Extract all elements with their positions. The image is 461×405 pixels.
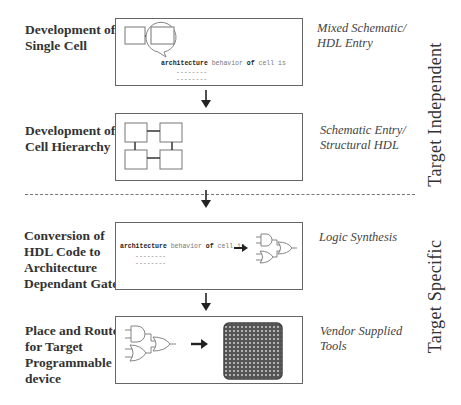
step-4-tool-line2: Tools [320, 339, 402, 354]
step-1-box: architecture behavior of cell is -------… [115, 18, 303, 86]
arrow-down-icon [200, 90, 212, 110]
step-2-box [115, 113, 303, 181]
fpga-chip-icon [224, 323, 282, 379]
arrow-down-icon [200, 293, 212, 313]
code-keyword: architecture [161, 60, 208, 67]
phase-label-target-specific: Target Specific [425, 227, 446, 367]
synthesized-gates-icon [116, 223, 304, 291]
step-1-tool-line1: Mixed Schematic/ [317, 21, 406, 36]
step-4-tool-line1: Vendor Supplied [320, 324, 402, 339]
step-4-label-line3: Programmable [25, 355, 119, 371]
code-ident: behavior [212, 60, 243, 67]
step-3-label-line4: Dependant Gates [24, 276, 123, 292]
step-3-box: architecture behavior of cell is -------… [115, 222, 303, 290]
step-1-tool: Mixed Schematic/ HDL Entry [317, 21, 406, 51]
step-2-label: Development of Cell Hierarchy [25, 123, 115, 155]
code-dashes: -------- -------- [176, 69, 207, 83]
step-4-tool: Vendor Supplied Tools [320, 324, 402, 354]
step-4-label-line1: Place and Route [25, 323, 119, 339]
step-2-tool-line1: Schematic Entry/ [320, 123, 406, 138]
step-1-label-line2: Single Cell [25, 38, 115, 54]
place-route-icon [116, 317, 304, 385]
arrow-down-icon [200, 190, 212, 210]
step-1-label-line1: Development of [25, 22, 115, 38]
step-4-label-line2: for Target [25, 339, 119, 355]
step-1-tool-line2: HDL Entry [317, 36, 406, 51]
step-3-tool: Logic Synthesis [319, 230, 397, 245]
step-3-label-line1: Conversion of [24, 228, 123, 244]
step-3-label: Conversion of HDL Code to Architecture D… [24, 228, 123, 292]
step-3-label-line2: HDL Code to [24, 244, 123, 260]
step-3-tool-line1: Logic Synthesis [319, 230, 397, 245]
step-2-label-line2: Cell Hierarchy [25, 139, 115, 155]
step-4-label: Place and Route for Target Programmable … [25, 323, 119, 387]
step-4-label-line4: device [25, 371, 119, 387]
phase-divider [25, 194, 415, 195]
single-cell-schematic-icon [116, 19, 304, 87]
dash-line: -------- [176, 69, 207, 76]
code-line: architecture behavior of cell is [161, 60, 286, 67]
step-2-tool: Schematic Entry/ Structural HDL [320, 123, 406, 153]
step-1-label: Development of Single Cell [25, 22, 115, 54]
phase-label-target-independent: Target Independent [425, 35, 446, 195]
dash-line: -------- [176, 76, 207, 83]
code-ident: cell is [259, 60, 286, 67]
step-4-box [115, 316, 303, 384]
step-3-label-line3: Architecture [24, 260, 123, 276]
step-2-label-line1: Development of [25, 123, 115, 139]
step-2-tool-line2: Structural HDL [320, 138, 406, 153]
cell-hierarchy-icon [116, 114, 304, 182]
code-keyword: of [247, 60, 255, 67]
